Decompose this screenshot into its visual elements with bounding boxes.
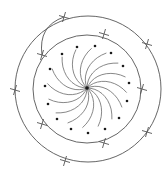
outer-cross-marker: [142, 39, 152, 49]
dot: [110, 52, 113, 55]
outer-cross-marker: [142, 127, 152, 137]
dot: [44, 85, 47, 88]
spiral-arm: [47, 83, 87, 94]
dot: [61, 53, 64, 56]
spiral-arm: [87, 73, 126, 88]
spiral-arm: [80, 48, 91, 88]
dot: [122, 65, 125, 68]
dot: [70, 128, 73, 131]
inner-cross-marker: [137, 84, 147, 94]
dot: [104, 128, 107, 131]
dot: [126, 100, 129, 103]
dot: [128, 82, 131, 85]
dot: [76, 46, 79, 49]
upper-arc: [41, 17, 64, 55]
spiral-arm: [87, 88, 102, 127]
dot: [94, 45, 97, 48]
center-hub: [85, 86, 89, 90]
inner-cross-marker: [99, 138, 109, 148]
spiral-arm: [87, 81, 127, 92]
spiral-arm: [72, 50, 87, 89]
dot: [49, 68, 52, 71]
dot: [118, 117, 121, 120]
spiral-diagram: [0, 0, 166, 173]
spiral-arm: [49, 88, 88, 103]
dot: [87, 132, 90, 135]
dot: [56, 118, 59, 121]
dot: [47, 103, 50, 106]
spiral-arm: [82, 88, 93, 128]
